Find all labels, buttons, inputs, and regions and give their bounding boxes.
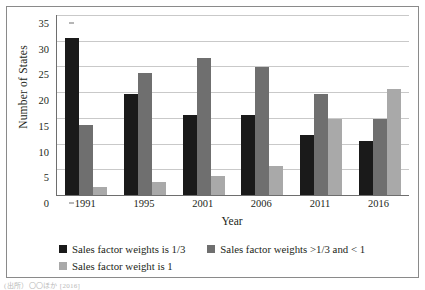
bar[interactable]	[359, 141, 373, 196]
x-tick-label: 2006	[237, 198, 285, 209]
y-tick-label: 20	[39, 95, 50, 106]
legend-swatch-icon	[207, 245, 215, 253]
figure-container: Number of States 05101520253035 19911995…	[0, 0, 425, 290]
y-tick-label: 25	[39, 69, 50, 80]
legend-entry-0: Sales factor weights is 1/3	[59, 243, 185, 255]
legend-label: Sales factor weight is 1	[72, 260, 173, 272]
bar-group	[300, 15, 342, 195]
legend-entry-2: Sales factor weight is 1	[59, 260, 173, 272]
legend-swatch-icon	[59, 245, 67, 253]
bar[interactable]	[373, 119, 387, 195]
x-tick-label: 1991	[61, 198, 109, 209]
bar-groups	[57, 15, 409, 195]
bar[interactable]	[152, 182, 166, 195]
chart-legend: Sales factor weights is 1/3 Sales factor…	[7, 240, 420, 278]
bar[interactable]	[65, 38, 79, 195]
bar-group	[124, 15, 166, 195]
y-axis-tick-labels: 05101520253035	[25, 15, 49, 195]
y-tick-label: 15	[39, 120, 50, 131]
bar[interactable]	[269, 166, 283, 195]
bar-group	[241, 15, 283, 195]
x-axis-tick-labels: 199119952001200620112016	[56, 198, 408, 209]
y-tick-label: 5	[44, 172, 49, 183]
bar[interactable]	[300, 135, 314, 195]
bar-group	[183, 15, 225, 195]
legend-entry-1: Sales factor weights >1/3 and < 1	[207, 243, 365, 255]
bar[interactable]	[314, 94, 328, 195]
legend-row: Sales factor weights is 1/3 Sales factor…	[59, 240, 420, 257]
chart-frame: Number of States 05101520253035 19911995…	[6, 6, 419, 278]
bar[interactable]	[387, 89, 401, 195]
bar[interactable]	[211, 176, 225, 195]
legend-label: Sales factor weights >1/3 and < 1	[220, 243, 365, 255]
x-tick-label: 1995	[120, 198, 168, 209]
bar[interactable]	[124, 94, 138, 195]
source-caption: (出所）〇〇ほか [2016]	[4, 280, 80, 290]
legend-label: Sales factor weights is 1/3	[72, 243, 185, 255]
bar-group	[65, 15, 107, 195]
bar[interactable]	[138, 73, 152, 195]
bar[interactable]	[79, 125, 93, 195]
x-tick-label: 2011	[296, 198, 344, 209]
bar[interactable]	[183, 115, 197, 195]
bar[interactable]	[328, 119, 342, 195]
x-tick-label: 2001	[179, 198, 227, 209]
y-tick-label: 35	[39, 18, 50, 29]
y-tick-label: 30	[39, 43, 50, 54]
x-axis-title: Year	[56, 215, 408, 227]
plot-canvas	[56, 15, 409, 196]
legend-row: Sales factor weight is 1	[59, 257, 420, 274]
bar[interactable]	[197, 58, 211, 195]
x-tick-label: 2016	[355, 198, 403, 209]
y-tick-label: 0	[44, 198, 49, 209]
bar-group	[359, 15, 401, 195]
bar[interactable]	[241, 115, 255, 195]
plot-area: Number of States 05101520253035 19911995…	[7, 7, 420, 239]
bar[interactable]	[255, 67, 269, 195]
legend-swatch-icon	[59, 262, 67, 270]
y-tick-label: 10	[39, 146, 50, 157]
bar[interactable]	[93, 187, 107, 195]
